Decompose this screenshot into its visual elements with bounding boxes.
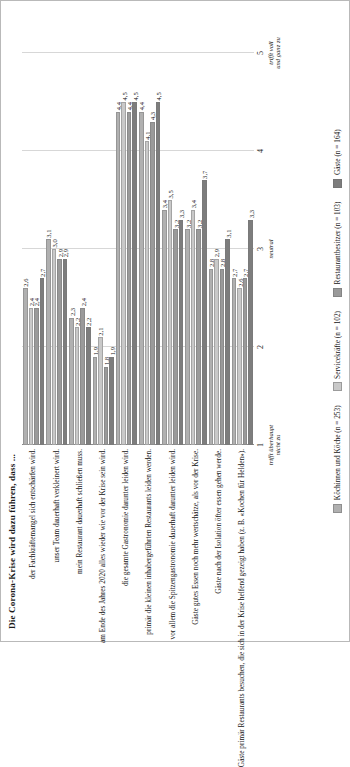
bar	[127, 112, 132, 445]
legend-swatch-icon	[333, 288, 342, 297]
bar-slot: 2,9	[214, 53, 219, 445]
bar	[196, 229, 201, 445]
bar-slot: 3,3	[179, 53, 184, 445]
bar-group: 3,43,53,23,3	[161, 53, 184, 445]
bar-slot: 1,9	[93, 53, 98, 445]
bar	[132, 102, 137, 445]
category-label: Gäste primär Restaurants besuchen, die s…	[231, 449, 254, 767]
bar-slot: 2,7	[40, 53, 45, 445]
legend-swatch-icon	[333, 179, 342, 188]
bar	[63, 259, 68, 445]
axis-tick-description: trifft überhauptnicht zu	[267, 425, 282, 465]
bar	[29, 308, 34, 445]
bar	[202, 180, 207, 445]
category-label: Gäste nach der Isolation öfter essen geh…	[208, 449, 231, 594]
bar-slot: 4,4	[127, 53, 132, 445]
bar-slot: 3,2	[173, 53, 178, 445]
category-label: unser Team dauerhaft verkleinert wird.	[45, 449, 68, 562]
bar-slot: 3,2	[185, 53, 190, 445]
bar-slot: 2,1	[98, 53, 103, 445]
bar-group: 3,13,02,92,9	[45, 53, 68, 445]
bar-slot: 2,4	[29, 53, 34, 445]
bar	[23, 288, 28, 445]
bar	[232, 278, 237, 445]
bar-slot: 2,6	[237, 53, 242, 445]
bar	[237, 288, 242, 445]
axis-tick-description: neutral	[267, 239, 274, 258]
legend-label: Restaurantbesitzer (n = 103)	[333, 202, 342, 285]
bar-slot: 3,7	[202, 53, 207, 445]
bar-slot: 3,1	[225, 53, 230, 445]
bar-slot: 1,8	[104, 53, 109, 445]
category-label: Gäste gutes Essen noch mehr wertschätze,…	[184, 449, 207, 625]
bar	[75, 327, 80, 445]
bar	[150, 122, 155, 445]
bar-group: 2,32,22,42,2	[68, 53, 91, 445]
bar-slot: 2,2	[86, 53, 91, 445]
category-label: die gesamte Gastronomie darunter leiden …	[115, 449, 138, 586]
legend-item[interactable]: Restaurantbesitzer (n = 103)	[333, 202, 342, 297]
bar	[145, 141, 150, 445]
bar-group: 2,72,62,73,3	[231, 53, 254, 445]
bar	[185, 229, 190, 445]
bar-slot: 1,9	[109, 53, 114, 445]
category-label: vor allem die Spitzengastronomie dauerha…	[161, 449, 184, 639]
bar-slot: 2,7	[243, 53, 248, 445]
bar-slot: 4,5	[156, 53, 161, 445]
bar	[243, 278, 248, 445]
bar-slot: 4,3	[150, 53, 155, 445]
bar	[46, 239, 51, 445]
bar	[93, 357, 98, 445]
legend-label: Köchinnen und Köche (n = 253)	[333, 405, 342, 500]
legend-item[interactable]: Servicekräfte (n = 102)	[333, 311, 342, 391]
bar	[98, 337, 103, 445]
bar-slot: 2,4	[34, 53, 39, 445]
bar-group: 2,82,92,83,1	[208, 53, 231, 445]
bar-group: 4,44,54,44,5	[115, 53, 138, 445]
bar	[40, 278, 45, 445]
bar	[156, 102, 161, 445]
chart-title: Die Corona-Krise wird dazu führen, dass …	[7, 454, 17, 629]
bar-slot: 4,5	[132, 53, 137, 445]
value-axis: 1trifft überhauptnicht zu23neutral45trif…	[254, 53, 300, 445]
chart-legend: Köchinnen und Köche (n = 253)Servicekräf…	[333, 1, 342, 641]
axis-tick-number: 4	[256, 149, 265, 153]
bar	[220, 269, 225, 445]
category-label: am Ende des Jahres 2020 alles wieder wie…	[92, 449, 115, 643]
bar-slot: 3,4	[191, 53, 196, 445]
axis-tick-number: 2	[256, 345, 265, 349]
bar-group: 4,44,14,34,5	[138, 53, 161, 445]
legend-swatch-icon	[333, 504, 342, 513]
bar	[52, 249, 57, 445]
bar-slot: 2,2	[75, 53, 80, 445]
legend-item[interactable]: Köchinnen und Köche (n = 253)	[333, 405, 342, 512]
bar-slot: 4,4	[116, 53, 121, 445]
legend-label: Gäste (n = 164)	[333, 129, 342, 175]
bar	[248, 220, 253, 445]
bar-group: 1,92,11,81,9	[92, 53, 115, 445]
bar-slot: 3,5	[168, 53, 173, 445]
bar-slot: 4,4	[139, 53, 144, 445]
bar	[116, 112, 121, 445]
bar-slot: 3,2	[196, 53, 201, 445]
bar-slot: 2,6	[23, 53, 28, 445]
category-label: der Fachkräftemangel sich entschärfen wi…	[22, 449, 45, 579]
legend-item[interactable]: Gäste (n = 164)	[333, 129, 342, 187]
bar-slot: 2,8	[220, 53, 225, 445]
axis-tick-number: 3	[256, 247, 265, 251]
bar	[168, 200, 173, 445]
bar	[173, 229, 178, 445]
bar-slot: 3,1	[46, 53, 51, 445]
bar	[80, 308, 85, 445]
axis-tick-description: trifft vollund ganz zu	[267, 37, 282, 69]
plot-area: 2,62,42,42,73,13,02,92,92,32,22,42,21,92…	[22, 53, 254, 445]
bar	[57, 259, 62, 445]
bar	[179, 220, 184, 445]
bar-slot: 3,3	[248, 53, 253, 445]
bar	[139, 112, 144, 445]
bar	[225, 239, 230, 445]
category-axis-labels: der Fachkräftemangel sich entschärfen wi…	[22, 449, 254, 635]
